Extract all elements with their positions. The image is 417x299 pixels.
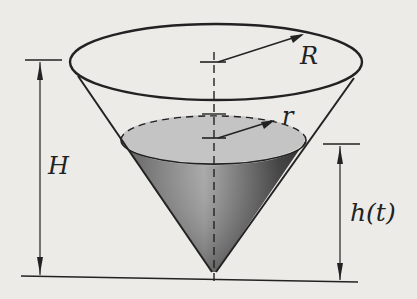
cone-diagram	[0, 0, 417, 299]
label-H: H	[48, 154, 69, 178]
ground-line	[21, 276, 358, 282]
liquid-surface	[121, 115, 305, 163]
label-R: R	[300, 44, 318, 68]
radius-R-arrow	[218, 34, 304, 62]
label-r: r	[282, 104, 293, 128]
label-h-t: h(t)	[350, 200, 396, 225]
